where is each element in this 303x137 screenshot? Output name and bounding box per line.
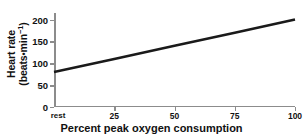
x-axis-title: Percent peak oxygen consumption: [0, 122, 303, 134]
y-axis-unit-mid: min: [17, 34, 29, 52]
y-axis-unit-prefix: (beats: [17, 55, 29, 85]
y-tick-label: 100: [32, 58, 48, 69]
data-series-layer: [54, 13, 295, 107]
x-tick-label: 50: [170, 111, 179, 121]
x-tick-label: 25: [110, 111, 119, 121]
y-axis-unit-suffix: ): [17, 22, 29, 25]
y-axis-unit-exponent: −1: [16, 26, 25, 34]
y-tick-mark: [50, 107, 54, 108]
heart-rate-chart: Heart rate (beats•min−1) 050100150200 re…: [0, 0, 303, 137]
x-tick-label: 100: [288, 111, 302, 121]
y-axis-unit-dot: •: [19, 52, 29, 55]
y-tick-label: 200: [32, 14, 48, 25]
x-tick-label: 75: [230, 111, 239, 121]
y-tick-label: 50: [37, 80, 48, 91]
series-line: [54, 20, 295, 72]
plot-area: 050100150200 rest255075100: [54, 13, 295, 107]
y-axis-title-line2: (beats•min−1): [18, 22, 30, 86]
x-tick-label: rest: [51, 111, 66, 120]
y-tick-label: 0: [43, 102, 48, 113]
y-tick-label: 150: [32, 36, 48, 47]
